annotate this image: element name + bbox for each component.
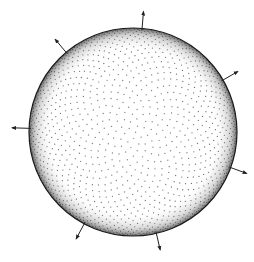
normal-arrow-bottom <box>156 231 160 250</box>
sphere-diagram-canvas <box>0 0 254 262</box>
normal-arrow-top <box>142 12 144 31</box>
sphere-diagram <box>0 0 254 262</box>
normal-arrow-lower-left <box>76 222 85 239</box>
sphere-rim-shading <box>29 28 237 236</box>
normal-arrow-upper-left <box>55 39 67 54</box>
normal-arrow-upper-right <box>221 72 238 82</box>
normal-arrow-lower-right <box>229 167 247 174</box>
normal-arrow-left <box>12 128 31 129</box>
